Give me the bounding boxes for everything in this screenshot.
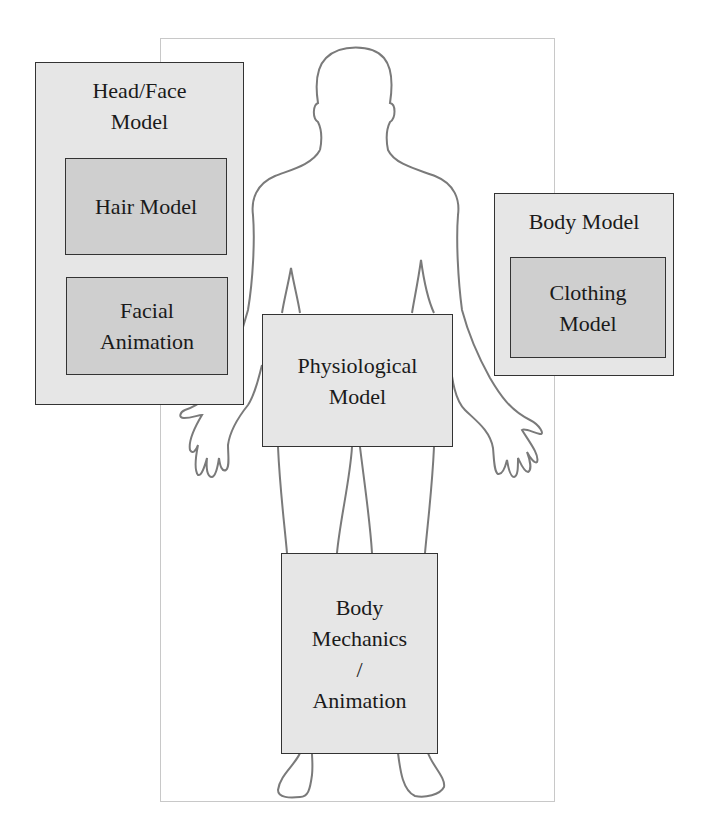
body-mechanics-label-1: Body	[336, 592, 384, 623]
hair-model-box: Hair Model	[65, 158, 227, 255]
clothing-model-box: Clothing Model	[510, 257, 666, 358]
clothing-model-label-1: Clothing	[549, 277, 626, 308]
body-mechanics-label-3: /	[356, 654, 362, 685]
body-model-label: Body Model	[529, 206, 640, 237]
body-mechanics-box: Body Mechanics / Animation	[281, 553, 438, 754]
body-mechanics-label-4: Animation	[312, 685, 406, 716]
hair-model-label: Hair Model	[95, 191, 197, 222]
physiological-model-label-2: Model	[329, 381, 386, 412]
clothing-model-label-2: Model	[559, 308, 616, 339]
facial-animation-label-1: Facial	[120, 295, 174, 326]
facial-animation-label-2: Animation	[100, 326, 194, 357]
head-face-model-box: Head/Face Model Hair Model Facial Animat…	[35, 62, 244, 405]
body-model-box: Body Model Clothing Model	[494, 193, 674, 376]
physiological-model-label-1: Physiological	[298, 350, 418, 381]
facial-animation-box: Facial Animation	[66, 277, 228, 375]
physiological-model-box: Physiological Model	[262, 314, 453, 447]
head-face-model-label: Head/Face Model	[75, 75, 205, 137]
body-mechanics-label-2: Mechanics	[312, 623, 407, 654]
